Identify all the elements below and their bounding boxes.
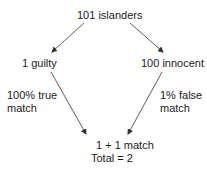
false-match-label-line2: match (160, 102, 190, 114)
innocent-node-label: 100 innocent (141, 57, 204, 69)
arrow-innocent-to-result (128, 72, 162, 134)
false-match-label-line1: 1% false (160, 89, 202, 101)
arrow-guilty-to-result (51, 72, 86, 134)
guilty-node-label: 1 guilty (22, 57, 57, 69)
root-node-label: 101 islanders (77, 9, 142, 21)
result-line1: 1 + 1 match (96, 139, 154, 151)
result-line2: Total = 2 (91, 152, 133, 164)
true-match-label-line1: 100% true (7, 89, 57, 101)
true-match-label-line2: match (7, 102, 37, 114)
arrow-root-to-innocent (130, 23, 163, 52)
arrow-root-to-guilty (52, 23, 84, 52)
